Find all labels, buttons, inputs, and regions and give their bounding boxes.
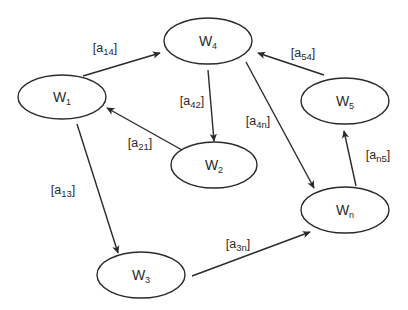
node-label-wn-subscript: n	[349, 210, 354, 220]
edge-label-a54: [a54]	[291, 47, 316, 60]
edge-label-a13: [a13]	[51, 184, 76, 197]
node-label-w5: W5	[336, 94, 354, 108]
edge-label-a4n-subscript: 4n	[256, 119, 267, 130]
graph-diagram: [a14][a42][a21][a54][a4n][an5][a13][a3n]…	[0, 0, 408, 310]
node-label-w2: W2	[205, 158, 223, 172]
node-label-w4-base: W	[199, 33, 212, 49]
node-label-wn: Wn	[336, 203, 354, 217]
node-label-wn-base: W	[336, 202, 349, 218]
edge-label-a21-subscript: 21	[138, 141, 149, 152]
edge-label-a13-subscript: 13	[61, 188, 72, 199]
edge-label-a14-subscript: 14	[103, 46, 114, 57]
node-label-w5-subscript: 5	[349, 101, 354, 111]
edge-label-a42-subscript: 42	[190, 99, 201, 110]
edge-arrow-an5	[344, 131, 356, 186]
node-label-w2-base: W	[205, 157, 218, 173]
edge-label-a3n-subscript: 3n	[236, 242, 247, 253]
node-label-w1-subscript: 1	[66, 97, 71, 107]
edge-label-a42: [a42]	[180, 95, 205, 108]
node-label-w3-subscript: 3	[145, 275, 150, 285]
edge-arrow-a3n	[192, 232, 310, 276]
edge-label-a14: [a14]	[93, 42, 118, 55]
edge-label-an5: [an5]	[366, 149, 391, 162]
edge-label-an5-subscript: n5	[376, 153, 387, 164]
node-label-w1-base: W	[53, 89, 66, 105]
nodes-layer	[18, 18, 389, 298]
edge-label-a21: [a21]	[128, 137, 153, 150]
node-label-w3-base: W	[132, 267, 145, 283]
edge-label-a54-subscript: 54	[301, 51, 312, 62]
edge-arrow-a42	[208, 70, 214, 141]
node-label-w1: W1	[53, 90, 71, 104]
node-label-w4: W4	[199, 34, 217, 48]
edge-arrow-a13	[77, 124, 118, 253]
edge-label-a3n: [a3n]	[226, 238, 251, 251]
edge-label-a4n: [a4n]	[246, 115, 271, 128]
node-label-w5-base: W	[336, 93, 349, 109]
node-label-w2-subscript: 2	[218, 165, 223, 175]
node-label-w3: W3	[132, 268, 150, 282]
node-label-w4-subscript: 4	[212, 41, 217, 51]
edge-arrow-a14	[83, 53, 160, 76]
